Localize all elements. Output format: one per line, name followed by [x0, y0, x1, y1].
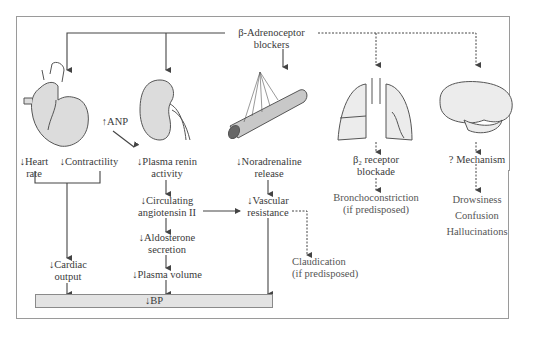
- blood-vessel-icon: [226, 72, 307, 141]
- frame-bottom-border: [16, 318, 509, 319]
- cns-effect-item: Hallucinations: [440, 224, 514, 240]
- diagram-stage: β-Adrenoceptor blockers ↑ANP ↓Heart rate…: [0, 0, 542, 337]
- anp-label: ↑ANP: [95, 116, 135, 128]
- plasma-renin-label: ↓Plasma renin activity: [125, 156, 209, 180]
- lungs-icon: [338, 78, 412, 140]
- drug-class-title: β-Adrenoceptor blockers: [225, 27, 318, 51]
- cns-effect-item: Drowsiness: [440, 192, 514, 208]
- plasma-volume-label: ↓Plasma volume: [125, 269, 209, 281]
- heart-icon: [24, 62, 88, 146]
- kidney-icon: [140, 80, 190, 140]
- frame-right-border: [508, 170, 509, 318]
- b2-receptor-label: β₂ receptor blockade: [330, 154, 422, 178]
- frame-left-border: [16, 170, 17, 318]
- brain-icon: [440, 82, 512, 133]
- aldosterone-label: ↓Aldosterone secretion: [125, 232, 209, 256]
- mechanism-label: ? Mechanism: [440, 154, 514, 166]
- cns-effect-item: Confusion: [440, 208, 514, 224]
- heart-rate-label: ↓Heart rate: [14, 156, 54, 180]
- cns-effects-list: Drowsiness Confusion Hallucinations: [440, 192, 514, 240]
- vascular-resistance-label: ↓Vascular resistance: [240, 195, 296, 219]
- noradrenaline-label: ↓Noradrenaline release: [228, 156, 310, 180]
- contractility-label: ↓Contractility: [56, 156, 122, 168]
- claudication-label: Claudication (if predisposed): [292, 256, 374, 280]
- bp-label: ↓BP: [35, 295, 273, 307]
- cardiac-output-label: ↓Cardiac output: [40, 259, 96, 283]
- bronchoconstriction-label: Bronchoconstriction (if predisposed): [322, 192, 430, 216]
- angiotensin-label: ↓Circulating angiotensin II: [125, 195, 209, 219]
